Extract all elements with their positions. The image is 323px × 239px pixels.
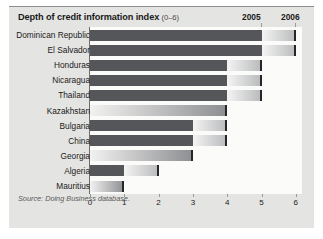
bar-row: Dominican Republic — [9, 28, 314, 43]
chart-title-text: Depth of credit information index — [18, 12, 159, 22]
bar-segment-2005 — [90, 120, 193, 131]
x-axis-tick — [159, 194, 160, 197]
bar-end-marker-2006 — [294, 45, 296, 56]
legend-label-2005: 2005 — [242, 12, 261, 22]
bar-segment-2005 — [90, 165, 124, 176]
bar-segment-2006 — [227, 75, 261, 86]
bar-row-label: Honduras — [54, 60, 90, 70]
bar-row: Honduras — [9, 58, 314, 73]
bar-segment-2006 — [90, 105, 227, 116]
bar-segment-2005 — [90, 60, 227, 71]
bar-row: Thailand — [9, 88, 314, 103]
bar-end-marker-2006 — [122, 181, 124, 192]
bar-segment-2005 — [90, 45, 262, 56]
bar-segment-2005 — [90, 30, 262, 41]
bar-end-marker-2006 — [191, 150, 193, 161]
bar-track — [90, 60, 301, 71]
bar-segment-2005 — [90, 75, 227, 86]
bar-segment-2006 — [90, 150, 193, 161]
bar-segment-2006 — [262, 30, 296, 41]
x-axis-tick-label: 5 — [259, 198, 263, 207]
bar-end-marker-2006 — [157, 165, 159, 176]
bar-segment-2005 — [90, 135, 193, 146]
source-note: Source: Doing Business database. — [18, 194, 130, 203]
bar-track — [90, 165, 301, 176]
bar-row-label: Kazakhstan — [47, 106, 90, 116]
bar-row-label: Algeria — [64, 166, 90, 176]
bar-track — [90, 135, 301, 146]
bar-track — [90, 181, 301, 192]
x-axis-tick-label: 6 — [294, 198, 298, 207]
bar-row: Georgia — [9, 149, 314, 164]
bar-track — [90, 150, 301, 161]
bar-row: Kazakhstan — [9, 104, 314, 119]
bar-row: El Salvador — [9, 43, 314, 58]
page-title: Depth of credit information index (0–6) — [18, 12, 179, 22]
bar-row: Algeria — [9, 164, 314, 179]
bar-end-marker-2006 — [260, 75, 262, 86]
chart-header: Depth of credit information index (0–6) … — [9, 6, 314, 27]
bar-row-label: Dominican Republic — [16, 30, 90, 40]
x-axis-tick-label: 2 — [156, 198, 160, 207]
legend-label-2006: 2006 — [281, 12, 300, 22]
bar-segment-2006 — [262, 45, 296, 56]
bar-track — [90, 45, 301, 56]
bar-segment-2006 — [193, 135, 227, 146]
bar-track — [90, 75, 301, 86]
bar-track — [90, 30, 301, 41]
bar-end-marker-2006 — [294, 30, 296, 41]
bar-row-label: El Salvador — [48, 45, 90, 55]
x-axis-tick — [193, 194, 194, 197]
x-axis-tick — [262, 194, 263, 197]
bar-segment-2006 — [227, 60, 261, 71]
bar-row-label: Georgia — [60, 151, 90, 161]
bar-segment-2005 — [90, 90, 227, 101]
bar-row: Mauritius — [9, 179, 314, 194]
bar-track — [90, 105, 301, 116]
x-axis-tick — [227, 194, 228, 197]
chart-title-range: (0–6) — [162, 13, 179, 22]
bar-segment-2006 — [124, 165, 158, 176]
bar-track — [90, 90, 301, 101]
bar-row-label: China — [68, 136, 90, 146]
bar-row-label: Nicaragua — [52, 75, 90, 85]
bar-end-marker-2006 — [225, 135, 227, 146]
bar-end-marker-2006 — [260, 90, 262, 101]
bar-segment-2006 — [90, 181, 124, 192]
bar-row: Bulgaria — [9, 119, 314, 134]
x-axis-tick-label: 4 — [225, 198, 229, 207]
bar-row-label: Thailand — [58, 90, 90, 100]
bar-segment-2006 — [193, 120, 227, 131]
bar-segment-2006 — [227, 90, 261, 101]
x-axis-tick — [296, 194, 297, 197]
bar-row-label: Bulgaria — [60, 121, 90, 131]
bar-end-marker-2006 — [225, 105, 227, 116]
bar-row: China — [9, 134, 314, 149]
bar-track — [90, 120, 301, 131]
bar-end-marker-2006 — [260, 60, 262, 71]
chart-figure: Depth of credit information index (0–6) … — [9, 6, 314, 228]
x-axis-tick-label: 3 — [191, 198, 195, 207]
bar-end-marker-2006 — [225, 120, 227, 131]
bar-row: Nicaragua — [9, 73, 314, 88]
bar-row-label: Mauritius — [56, 181, 90, 191]
